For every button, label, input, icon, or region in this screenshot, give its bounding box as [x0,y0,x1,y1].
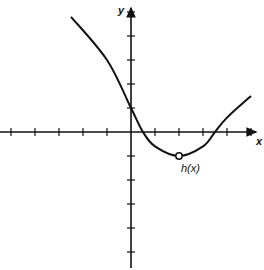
curve-label: h(x) [181,162,200,174]
x-axis-label: x [255,135,263,147]
function-graph: x y h(x) [0,0,264,270]
h-curve [71,17,251,156]
y-axis-label: y [117,4,125,16]
open-point-marker [176,153,182,159]
